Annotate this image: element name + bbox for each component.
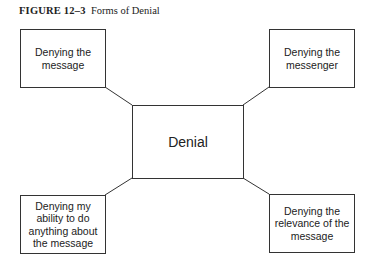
node-label: Denying my ability to do anything about …: [23, 200, 103, 250]
node-bottom-right: Denying the relevance of the message: [269, 194, 355, 253]
node-top-left: Denying the message: [20, 29, 106, 88]
connector-bottom-left: [105, 178, 132, 195]
connector-top-left: [105, 87, 132, 105]
node-label: Denying the relevance of the message: [271, 205, 353, 243]
connector-top-right: [243, 87, 269, 105]
node-label: Denying the messenger: [277, 46, 347, 71]
node-top-right: Denying the messenger: [269, 29, 355, 88]
node-bottom-left: Denying my ability to do anything about …: [20, 195, 106, 254]
node-label: Denying the message: [33, 46, 93, 71]
node-center: Denial: [132, 105, 244, 179]
center-label: Denial: [168, 136, 208, 149]
connector-bottom-right: [243, 178, 269, 194]
